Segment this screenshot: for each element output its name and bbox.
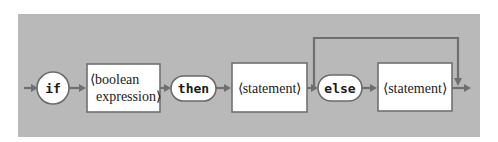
then-label: then [178,81,209,96]
terminal-else: else [318,75,362,101]
syntax-diagram: if ⟨boolean expression⟩ then ⟨statement⟩… [0,0,498,142]
boolean-expression-label-line2: expression⟩ [96,89,161,104]
if-label: if [45,81,61,96]
nonterminal-statement-1: ⟨statement⟩ [232,63,307,112]
statement-label-2: ⟨statement⟩ [383,81,447,96]
nonterminal-boolean-expression: ⟨boolean expression⟩ [87,64,161,112]
boolean-expression-label-line1: ⟨boolean [90,72,139,87]
else-label: else [324,81,355,96]
terminal-then: then [171,76,216,101]
terminal-if: if [37,72,69,104]
statement-label-1: ⟨statement⟩ [238,81,302,96]
nonterminal-statement-2: ⟨statement⟩ [378,63,452,111]
